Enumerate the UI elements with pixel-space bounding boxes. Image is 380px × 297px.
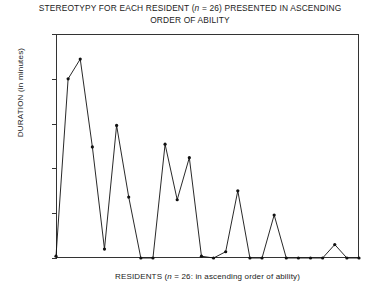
data-point [321, 256, 324, 259]
chart-title-part-a: STEREOTYPY FOR EACH RESIDENT ( [39, 3, 195, 13]
chart-title-part-c: ORDER OF ABILITY [150, 15, 230, 25]
data-point [248, 256, 251, 259]
chart-title-part-b: = 26) PRESENTED IN ASCENDING [199, 3, 341, 13]
series-markers [54, 57, 360, 259]
data-point [103, 247, 106, 250]
data-point [333, 243, 336, 246]
data-point [139, 256, 142, 259]
y-axis-label: DURATION (in minutes) [16, 18, 25, 168]
data-point [163, 143, 166, 146]
data-point [345, 256, 348, 259]
data-point [127, 195, 130, 198]
data-point [236, 189, 239, 192]
data-point [188, 156, 191, 159]
data-point [285, 256, 288, 259]
data-point [309, 256, 312, 259]
x-axis-label-part-b: = 26: in ascending order of ability) [172, 272, 300, 281]
x-axis-label-part-a: RESIDENTS ( [115, 272, 167, 281]
data-point [67, 77, 70, 80]
data-point [297, 256, 300, 259]
data-point [273, 213, 276, 216]
chart-title: STEREOTYPY FOR EACH RESIDENT (n = 26) PR… [28, 3, 352, 26]
data-point [115, 124, 118, 127]
series-line [56, 59, 359, 258]
x-axis-label: RESIDENTS (n = 26: in ascending order of… [56, 272, 359, 281]
data-point [224, 250, 227, 253]
data-point [357, 256, 360, 259]
data-point [260, 256, 263, 259]
data-series-plot [56, 34, 359, 258]
data-point [212, 256, 215, 259]
chart-figure: STEREOTYPY FOR EACH RESIDENT (n = 26) PR… [0, 0, 380, 297]
data-point [176, 198, 179, 201]
y-tick-mark [52, 258, 57, 259]
data-point [79, 57, 82, 60]
data-point [151, 256, 154, 259]
data-point [54, 255, 57, 258]
data-point [91, 145, 94, 148]
data-point [200, 255, 203, 258]
